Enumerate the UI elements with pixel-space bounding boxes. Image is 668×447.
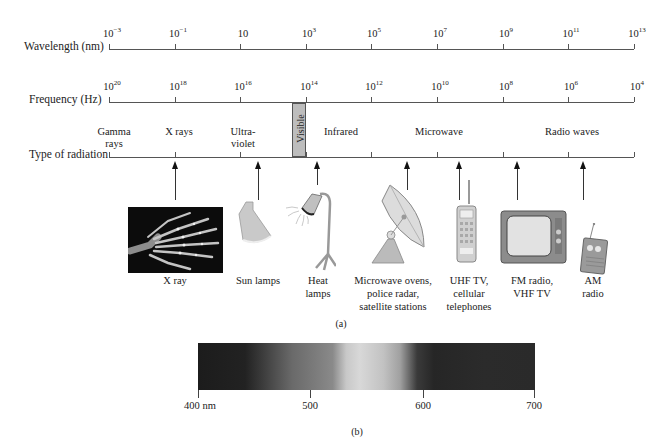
radiation-tick [634,152,635,157]
frequency-tick-label: 104 [630,81,644,92]
wavelength-tick-label: 1011 [562,28,579,39]
spectrum-tick-label: 500 [302,400,318,411]
wavelength-axis-label: Wavelength (nm) [24,40,104,52]
arrow-up-icon [456,161,462,169]
example-label-am-radio: AMradio [582,274,604,300]
frequency-tick-label: 1014 [300,81,318,92]
wavelength-tick [109,44,110,49]
arrow-up-icon [314,161,320,169]
frequency-tick [437,97,438,102]
visible-band-label: Visible [295,108,306,150]
arrow-up-icon [172,161,178,169]
wavelength-tick [503,44,504,49]
heat-lamp-icon [284,190,336,275]
frequency-tick-label: 1012 [365,81,383,92]
frequency-tick-label: 1016 [234,81,252,92]
wavelength-tick-label: 105 [367,28,381,39]
frequency-axis-label: Frequency (Hz) [29,93,101,105]
frequency-tick [175,97,176,102]
spectrum-tick [310,390,311,398]
television-icon [500,210,567,264]
radiation-tick [240,152,241,157]
radiation-label-x-rays: X rays [165,126,193,138]
example-label-fm-radio: FM radio,VHF TV [511,274,553,300]
radiation-tick [503,152,504,157]
spectrum-tick [534,390,535,398]
radiation-tick [109,152,110,157]
radiation-tick [306,152,307,157]
frequency-tick [568,97,569,102]
radiation-label-gamma: Gammarays [97,126,130,150]
spectrum-tick-label: 700 [526,400,542,411]
wavelength-tick-label: 10 [238,28,249,39]
wavelength-tick [568,44,569,49]
sun-lamp-icon [237,200,273,246]
cellular-phone-icon [455,180,477,264]
frequency-tick [503,97,504,102]
wavelength-tick [306,44,307,49]
radiation-tick [371,152,372,157]
part-a-caption: (a) [335,318,346,329]
am-radio-icon [580,223,610,275]
frequency-tick [240,97,241,102]
frequency-tick [371,97,372,102]
radiation-label-radio-waves: Radio waves [545,126,599,138]
spectrum-tick-label: 400 nm [184,400,216,411]
example-label-heat-lamps: Heatlamps [305,274,330,300]
arrow-up-icon [404,161,410,169]
frequency-tick-label: 108 [499,81,513,92]
frequency-tick-label: 1018 [169,81,187,92]
radiation-axis-label: Type of radiation [29,148,108,160]
spectrum-tick [198,390,199,398]
example-label-uhf-tv: UHF TV,cellulartelephones [447,274,492,313]
wavelength-tick [634,44,635,49]
arrow-up-icon [514,161,520,169]
spectrum-tick-label: 600 [415,400,431,411]
frequency-tick [306,97,307,102]
wavelength-tick-label: 109 [499,28,513,39]
frequency-tick-label: 106 [564,81,578,92]
wavelength-tick [437,44,438,49]
radiation-axis-line [109,157,634,158]
radiation-tick [437,152,438,157]
frequency-axis-line [109,102,634,103]
spectrum-tick [423,390,424,398]
wavelength-tick [371,44,372,49]
frequency-tick-label: 1010 [431,81,449,92]
visible-band: Visible [292,103,306,157]
radiation-label-ultraviolet: Ultra-violet [230,126,255,150]
wavelength-tick [175,44,176,49]
frequency-tick-label: 1020 [103,81,121,92]
wavelength-tick-label: 10−1 [169,28,187,39]
radiation-label-infrared: Infrared [324,126,358,138]
arrow-up-icon [580,161,586,169]
wavelength-tick [240,44,241,49]
example-label-microwave-ovens: Microwave ovens,police radar,satellite s… [354,274,432,313]
frequency-tick [109,97,110,102]
wavelength-axis-line [109,49,634,50]
part-b-caption: (b) [351,426,363,437]
frequency-tick [634,97,635,102]
wavelength-tick-label: 107 [433,28,447,39]
radiation-tick [175,152,176,157]
example-label-x-ray: X ray [163,274,187,287]
radiation-tick [568,152,569,157]
satellite-dish-icon [368,183,428,265]
x-ray-hand-image [128,207,223,273]
example-label-sun-lamps: Sun lamps [236,274,280,287]
visible-spectrum-bar [198,343,535,390]
arrow-up-icon [255,161,261,169]
wavelength-tick-label: 10−3 [103,28,121,39]
wavelength-tick-label: 1013 [628,28,646,39]
radiation-label-microwave: Microwave [415,126,463,138]
wavelength-tick-label: 103 [302,28,316,39]
